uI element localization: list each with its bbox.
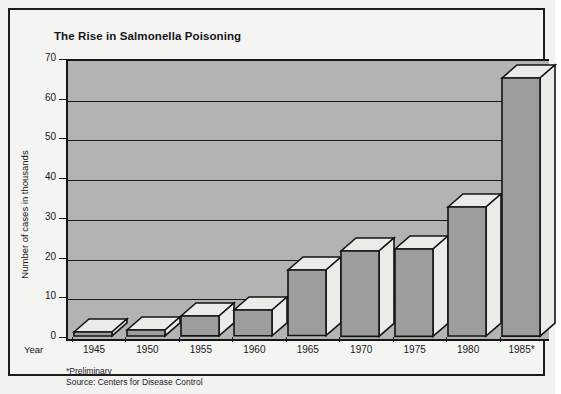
y-tick: 30 [10,218,66,219]
bar-front-face [288,270,326,336]
bar-side-face [540,65,555,336]
y-tick-label: 20 [45,251,56,262]
y-tick-mark [59,178,66,179]
y-tick: 20 [10,258,66,259]
y-tick-mark [59,59,66,60]
footnotes: *Preliminary Source: Centers for Disease… [66,366,203,388]
bar-side-face [433,236,448,336]
y-tick: 0 [10,337,66,338]
bar-side-face [326,257,341,336]
bar-1985 [502,65,558,339]
gridline [68,140,549,141]
y-tick-label: 70 [45,52,56,63]
bar-front-face [502,78,540,336]
bar-side-face [379,238,394,336]
gridline [68,180,549,181]
x-tick-label: 1965 [278,344,338,355]
y-tick-label: 60 [45,92,56,103]
bar-front-face [448,207,486,336]
bar-1950 [127,317,183,339]
x-tick-mark [339,337,340,342]
bar-front-face [181,316,219,336]
y-tick: 60 [10,99,66,100]
y-tick-mark [59,297,66,298]
y-tick-label: 10 [45,290,56,301]
y-tick-mark [59,99,66,100]
y-axis-title: Number of cases in thousands [19,95,30,335]
x-tick-label: 1950 [117,344,177,355]
y-tick-mark [59,258,66,259]
bar-front-face [74,332,112,336]
x-tick-mark [179,337,180,342]
y-tick: 50 [10,138,66,139]
y-tick: 10 [10,297,66,298]
bar-1980 [448,194,504,339]
y-tick: 70 [10,59,66,60]
bar-1960 [234,297,290,339]
bar-front-face [127,330,165,336]
x-axis: Year 19451950195519601965197019751980198… [10,339,561,363]
bar-side-face [486,194,501,336]
y-tick-mark [59,218,66,219]
y-tick-label: 40 [45,171,56,182]
plot-area [66,59,549,341]
x-tick-mark [286,337,287,342]
x-tick-mark [393,337,394,342]
y-tick-mark [59,337,66,338]
x-tick-label: 1970 [331,344,391,355]
x-tick-label: 1985* [492,344,552,355]
y-tick-label: 30 [45,211,56,222]
x-tick-label: 1955 [171,344,231,355]
bar-front-face [234,310,272,336]
bar-1975 [395,236,451,339]
chart-title: The Rise in Salmonella Poisoning [54,30,241,42]
y-tick-label: 50 [45,131,56,142]
y-tick-mark [59,138,66,139]
x-tick-label: 1960 [224,344,284,355]
bar-1970 [341,238,397,339]
bar-1955 [181,303,237,339]
chart-frame: The Rise in Salmonella Poisoning Number … [8,8,545,376]
x-tick-mark [125,337,126,342]
x-tick-label: 1945 [64,344,124,355]
x-tick-label: 1975 [385,344,445,355]
bar-front-face [341,251,379,336]
y-axis: Number of cases in thousands 01020304050… [10,59,66,337]
bar-1945 [74,319,130,339]
footnote-source: Source: Centers for Disease Control [66,377,203,388]
x-tick-label: 1980 [438,344,498,355]
x-tick-mark [500,337,501,342]
x-axis-title: Year [24,344,43,355]
bar-front-face [395,249,433,336]
x-tick-mark [232,337,233,342]
y-tick: 40 [10,178,66,179]
gridline [68,101,549,102]
footnote-preliminary: *Preliminary [66,366,203,377]
bar-1965 [288,257,344,339]
x-tick-mark [72,337,73,342]
x-tick-mark [446,337,447,342]
